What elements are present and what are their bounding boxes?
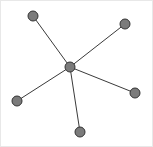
graph-edge [70, 24, 125, 67]
edge-layer [17, 16, 135, 132]
graph-edge [70, 67, 135, 93]
node-layer [12, 11, 140, 137]
graph-node[interactable] [130, 88, 140, 98]
graph-node[interactable] [120, 19, 130, 29]
graph-node[interactable] [75, 127, 85, 137]
graph-edge [70, 67, 80, 132]
graph-edge [17, 67, 70, 101]
graph-figure [0, 0, 153, 147]
graph-edge [33, 16, 70, 67]
graph-node-center[interactable] [65, 62, 75, 72]
graph-node[interactable] [12, 96, 22, 106]
graph-node[interactable] [28, 11, 38, 21]
graph-canvas [1, 1, 153, 147]
